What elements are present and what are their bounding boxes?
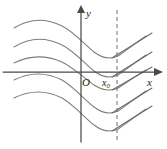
curve-branch-3 <box>112 67 152 90</box>
integral-curve-3 <box>14 57 146 90</box>
asymptote-label-subscript: 0 <box>106 82 110 90</box>
curve-branch-1 <box>112 33 152 58</box>
figure-canvas: x y O x0 <box>0 0 167 149</box>
origin-label: O <box>82 76 90 88</box>
y-axis-arrow-icon <box>77 5 85 13</box>
asymptote-label: x0 <box>101 77 110 90</box>
x-axis-label: x <box>146 76 152 88</box>
x-axis-arrow-icon <box>154 68 163 76</box>
integral-curve-4 <box>14 74 146 113</box>
curve-branch-group <box>112 33 152 131</box>
y-axis-label: y <box>85 7 91 19</box>
integral-curves-figure: x y O x0 <box>0 0 167 149</box>
integral-curve-group <box>14 20 146 131</box>
integral-curve-5 <box>14 92 146 131</box>
